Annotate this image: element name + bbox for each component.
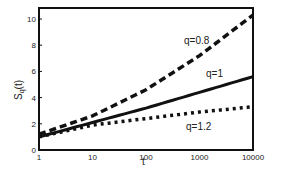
y-tick: 10	[27, 15, 36, 24]
label-q12: q=1.2	[186, 121, 212, 132]
y-tick: 8	[32, 41, 37, 50]
x-tick: 1	[37, 153, 42, 162]
chart: 0246810110100100010000 q=0.8 q=1 q=1.2 t…	[0, 0, 282, 173]
x-tick: 10	[88, 153, 97, 162]
x-tick: 10000	[242, 153, 265, 162]
x-axis-label: t	[142, 156, 145, 167]
label-q1: q=1	[206, 68, 223, 79]
label-q08: q=0.8	[184, 35, 210, 46]
y-tick: 4	[32, 94, 37, 103]
svg-text:Sq(t): Sq(t)	[13, 80, 26, 100]
series-line	[39, 77, 253, 137]
y-axis-label: Sq(t)	[13, 80, 26, 100]
plot-svg: 0246810110100100010000 q=0.8 q=1 q=1.2 t…	[0, 0, 282, 173]
y-tick: 6	[32, 67, 37, 76]
x-tick: 1000	[191, 153, 209, 162]
y-tick: 2	[32, 120, 37, 129]
